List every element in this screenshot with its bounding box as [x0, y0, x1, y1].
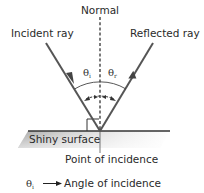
legend-text: Angle of incidence [64, 177, 161, 189]
incident-ray [46, 43, 100, 131]
inner-arc-arrow-right-icon [110, 96, 116, 101]
point-of-incidence-label: Point of incidence [65, 153, 158, 165]
normal-label: Normal [81, 4, 119, 16]
reflected-ray [100, 43, 153, 131]
theta-r-label: θr [108, 67, 117, 79]
inner-arc-arrow-center-left-icon [94, 95, 98, 99]
shiny-surface-label: Shiny surface [29, 133, 100, 145]
legend-arrow-icon [56, 181, 62, 186]
inner-arc-arrow-center-right-icon [102, 95, 106, 99]
theta-i-label: θi [83, 67, 91, 79]
legend-theta-symbol: θi [26, 178, 34, 190]
reflection-diagram: Normal Incident ray Reflected ray θi θr … [0, 0, 204, 193]
reflected-ray-label: Reflected ray [130, 27, 200, 39]
legend: θi Angle of incidence [26, 177, 161, 190]
incident-ray-label: Incident ray [11, 27, 74, 39]
inner-arc-arrow-left-icon [84, 96, 90, 101]
